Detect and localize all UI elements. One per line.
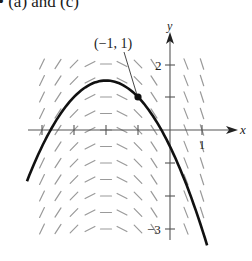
slope-mark (40, 224, 45, 234)
x-axis-label: x (239, 122, 246, 137)
slope-mark (55, 224, 61, 233)
slope-mark (55, 191, 61, 200)
slope-mark (200, 59, 203, 69)
slope-mark (55, 158, 61, 167)
slope-mark (55, 92, 61, 101)
slope-mark (134, 209, 142, 217)
slope-mark (134, 225, 142, 233)
slope-mark (40, 59, 45, 69)
slope-mark (117, 144, 127, 149)
slope-mark (117, 210, 127, 215)
slope-mark (85, 194, 95, 199)
slope-mark (85, 210, 95, 215)
slope-mark (184, 108, 188, 118)
slope-mark (151, 191, 157, 200)
slope-mark (200, 191, 203, 201)
slope-mark (40, 175, 45, 185)
slope-mark (134, 192, 142, 200)
slope-mark (55, 142, 61, 151)
slope-mark (200, 207, 203, 217)
slope-mark (85, 177, 95, 182)
point-label: (−1, 1) (94, 36, 133, 52)
point-marker (134, 93, 141, 100)
slope-mark (184, 75, 188, 85)
slope-mark (151, 208, 157, 217)
slope-mark (85, 95, 95, 100)
slope-mark (151, 76, 157, 85)
slope-mark (200, 174, 203, 184)
slope-mark (85, 227, 95, 232)
slope-mark (151, 158, 157, 167)
slope-mark (40, 208, 45, 218)
slope-mark (151, 175, 157, 184)
slope-mark (117, 227, 127, 232)
y-tick-label-2: 2 (155, 58, 162, 73)
slope-field-plot: (−1, 1) x y 2 −3 1 (0, 0, 252, 261)
slope-mark (184, 191, 188, 201)
slope-mark (55, 175, 61, 184)
slope-mark (70, 77, 78, 85)
slope-mark (151, 92, 157, 101)
slope-mark (184, 141, 188, 151)
slope-mark (40, 158, 45, 168)
slope-mark (200, 108, 203, 118)
slope-mark (55, 59, 61, 68)
slope-mark (151, 142, 157, 151)
slope-mark (134, 143, 142, 151)
slope-mark (70, 209, 78, 217)
slope-mark (85, 161, 95, 166)
slope-mark (70, 159, 78, 167)
slope-mark (55, 76, 61, 85)
slope-mark (85, 62, 95, 67)
slope-mark (134, 176, 142, 184)
slope-mark (70, 143, 78, 151)
slope-mark (200, 75, 203, 85)
solution-curve (27, 81, 207, 246)
slope-mark (117, 194, 127, 199)
slope-mark (40, 191, 45, 201)
slope-mark (184, 224, 188, 234)
slope-mark (70, 60, 78, 68)
slope-mark (134, 110, 142, 118)
slope-mark (40, 109, 45, 119)
slope-mark (70, 110, 78, 118)
slope-mark (134, 159, 142, 167)
slope-mark (184, 207, 188, 217)
slope-mark (70, 225, 78, 233)
slope-mark (117, 161, 127, 166)
slope-mark (70, 192, 78, 200)
slope-mark (40, 92, 45, 102)
slope-mark (184, 158, 188, 168)
slope-mark (70, 176, 78, 184)
slope-mark (200, 158, 203, 168)
slope-mark (55, 208, 61, 217)
slope-mark (184, 92, 188, 102)
slope-mark (40, 76, 45, 86)
slope-mark (117, 95, 127, 100)
x-tick-label-1: 1 (199, 138, 205, 152)
slope-mark (117, 111, 127, 116)
slope-mark (117, 177, 127, 182)
slope-mark (134, 77, 142, 85)
slope-mark (85, 144, 95, 149)
slope-mark (85, 111, 95, 116)
slope-mark (117, 62, 127, 67)
y-tick-label-neg3: −3 (147, 222, 161, 237)
slope-mark (134, 60, 142, 68)
slope-mark (200, 92, 203, 102)
y-axis-label: y (166, 19, 173, 33)
slope-mark (184, 59, 188, 69)
